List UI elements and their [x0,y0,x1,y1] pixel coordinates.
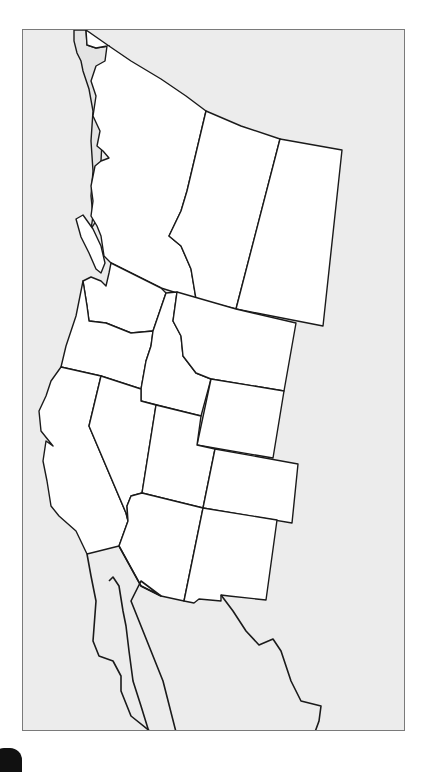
map-frame [22,29,405,731]
baja-gulf-coast [109,577,149,731]
western-north-america-map [23,30,405,731]
rio-grande-border [221,595,321,731]
region-wyoming[interactable] [197,379,284,458]
page-corner-tab [0,748,22,772]
